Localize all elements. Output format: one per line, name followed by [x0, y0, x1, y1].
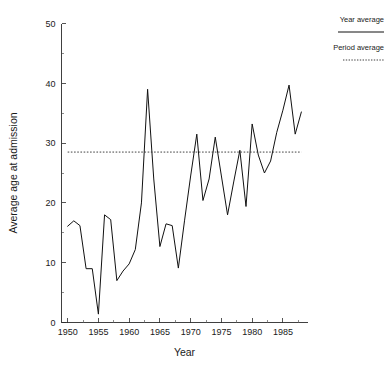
x-tick-label: 1955	[88, 327, 108, 337]
y-tick-label: 0	[50, 318, 55, 328]
x-tick-label: 1965	[150, 327, 170, 337]
y-tick-label: 50	[45, 19, 55, 29]
x-tick-label: 1960	[119, 327, 139, 337]
y-tick-label: 10	[45, 258, 55, 268]
y-tick-label: 20	[45, 198, 55, 208]
x-tick-label: 1970	[181, 327, 201, 337]
x-tick-label: 1985	[273, 327, 293, 337]
x-tick-label: 1975	[211, 327, 231, 337]
y-tick-label: 30	[45, 138, 55, 148]
x-tick-label: 1980	[242, 327, 262, 337]
y-axis-title: Average age at admission	[7, 112, 19, 233]
x-tick-label: 1950	[58, 327, 78, 337]
legend-label-year-average: Year average	[340, 15, 384, 24]
x-axis-title: Year	[174, 346, 196, 358]
chart-figure: 01020304050 1950195519601965197019751980…	[0, 0, 389, 388]
y-tick-label: 40	[45, 79, 55, 89]
legend-label-period-average: Period average	[333, 43, 384, 52]
line-chart: 01020304050 1950195519601965197019751980…	[0, 0, 389, 388]
